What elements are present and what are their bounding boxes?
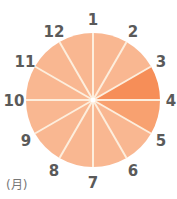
month-label-12: 12 (44, 23, 65, 41)
month-label-4: 4 (166, 92, 176, 110)
center-dot (91, 98, 96, 103)
month-label-6: 6 (128, 162, 138, 180)
month-label-11: 11 (15, 53, 36, 71)
month-label-2: 2 (128, 23, 138, 41)
month-clock-chart: 1 2 3 4 5 6 7 8 9 10 11 12 (月) (0, 0, 177, 199)
month-label-1: 1 (88, 11, 98, 29)
month-label-3: 3 (156, 53, 166, 71)
unit-label: (月) (6, 178, 27, 192)
month-label-7: 7 (88, 174, 98, 192)
month-label-8: 8 (49, 162, 59, 180)
month-label-10: 10 (4, 92, 25, 110)
month-label-5: 5 (156, 132, 166, 150)
month-label-9: 9 (21, 132, 31, 150)
